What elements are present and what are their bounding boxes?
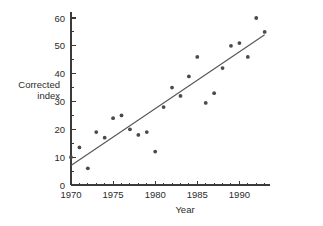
data-point	[170, 86, 174, 90]
trend-line	[71, 35, 265, 166]
data-point	[254, 16, 258, 20]
data-point	[162, 105, 166, 109]
data-point	[153, 150, 157, 154]
data-point	[136, 133, 140, 137]
y-tick-label: 0	[60, 180, 65, 191]
data-point	[238, 41, 242, 45]
data-point	[221, 66, 225, 70]
data-point	[246, 55, 250, 59]
data-point	[263, 30, 267, 34]
data-point	[128, 127, 132, 131]
data-point	[187, 75, 191, 79]
x-tick-label: 1990	[229, 189, 250, 200]
y-tick-label: 20	[54, 124, 65, 135]
y-axis-major-ticks	[71, 18, 76, 185]
scatter-plot-figure: 19701975198019851990 0102030405060 Year …	[0, 0, 323, 226]
x-axis-tick-labels: 19701975198019851990	[60, 189, 250, 200]
y-tick-label: 60	[54, 13, 65, 24]
data-point	[229, 44, 233, 48]
data-point	[69, 155, 73, 159]
x-tick-label: 1970	[60, 189, 81, 200]
x-tick-label: 1985	[187, 189, 208, 200]
y-axis-title-line1: Corrected	[18, 79, 60, 90]
data-point	[145, 130, 149, 134]
chart-canvas: 19701975198019851990 0102030405060 Year …	[0, 0, 323, 226]
data-point	[94, 130, 98, 134]
y-tick-label: 50	[54, 40, 65, 51]
y-axis-tick-labels: 0102030405060	[54, 13, 65, 191]
data-point	[103, 136, 107, 140]
data-point	[86, 166, 90, 170]
y-tick-label: 10	[54, 152, 65, 163]
data-point	[111, 116, 115, 120]
data-point	[78, 146, 82, 150]
x-tick-label: 1975	[103, 189, 124, 200]
y-axis-title-line2: index	[37, 90, 60, 101]
data-point	[212, 91, 216, 95]
y-tick-label: 40	[54, 68, 65, 79]
data-point	[204, 101, 208, 105]
data-point	[120, 114, 124, 118]
x-tick-label: 1980	[145, 189, 166, 200]
data-point	[179, 94, 183, 98]
x-axis-title: Year	[175, 204, 194, 215]
data-point	[195, 55, 199, 59]
